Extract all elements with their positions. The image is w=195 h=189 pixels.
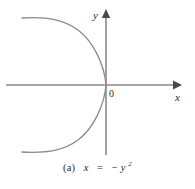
parabola-curve-upper <box>22 18 106 85</box>
figure-container: y x 0 (a) x = − y 2 <box>0 0 195 189</box>
caption-lhs: x <box>84 162 89 173</box>
x-axis-arrowhead <box>173 81 182 90</box>
caption-prefix: (a) <box>63 162 75 173</box>
caption-exponent: 2 <box>128 160 132 168</box>
origin-label: 0 <box>109 88 114 99</box>
caption-equals: = <box>97 162 103 173</box>
y-axis-arrowhead <box>102 9 110 18</box>
caption-minus-sign: − <box>112 162 118 173</box>
figure-caption: (a) x = − y 2 <box>0 160 195 173</box>
caption-variable: y <box>121 162 126 173</box>
x-axis-label: x <box>174 91 180 103</box>
parabola-curve-lower <box>22 85 106 152</box>
y-axis-label: y <box>92 9 98 21</box>
